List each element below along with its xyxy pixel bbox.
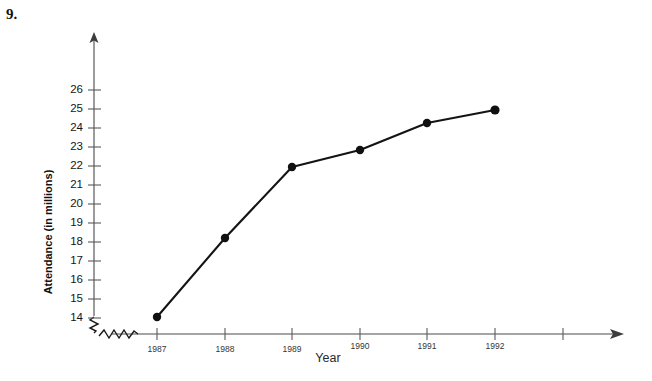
x-tick-label: 1991	[418, 341, 437, 351]
y-tick-label: 22	[70, 159, 83, 171]
x-tick-label: 1992	[486, 341, 505, 351]
data-point-1989	[288, 163, 296, 171]
y-tick-label: 18	[70, 235, 83, 247]
x-axis-title: Year	[315, 351, 340, 365]
attendance-data-line	[157, 110, 495, 317]
y-tick-label: 16	[70, 273, 83, 285]
x-tick-label: 1990	[351, 341, 370, 351]
data-point-1992	[490, 105, 499, 114]
y-tick-label: 25	[70, 102, 83, 114]
y-tick-label: 24	[70, 121, 83, 133]
chart-page: 9. 26 25 24 23 22 21 20	[0, 0, 652, 381]
y-tick-label: 20	[70, 197, 83, 209]
y-tick-label: 23	[70, 140, 83, 152]
y-axis-break-icon	[90, 317, 98, 333]
y-tick-label: 19	[70, 216, 83, 228]
y-tick-label: 17	[70, 254, 83, 266]
y-tick-label: 21	[70, 178, 83, 190]
data-point-1988	[221, 234, 229, 242]
y-axis-ticks: 26 25 24 23 22 21 20 19 18 17 16 15	[70, 83, 101, 323]
attendance-line-chart: 26 25 24 23 22 21 20 19 18 17 16 15	[0, 0, 652, 381]
y-tick-label: 26	[70, 83, 83, 95]
x-tick-label: 1988	[216, 344, 235, 354]
data-point-1987	[153, 313, 161, 321]
y-tick-label: 14	[70, 311, 83, 323]
y-axis-title: Attendance (in millions)	[42, 169, 54, 294]
x-tick-label: 1989	[283, 344, 302, 354]
data-point-markers	[153, 105, 500, 321]
x-tick-label: 1987	[148, 344, 167, 354]
data-point-1991	[423, 119, 431, 127]
x-axis-ticks: 1987 1988 1989 1990 1991 1992	[148, 328, 563, 354]
y-tick-label: 15	[70, 292, 83, 304]
data-point-1990	[356, 146, 364, 154]
